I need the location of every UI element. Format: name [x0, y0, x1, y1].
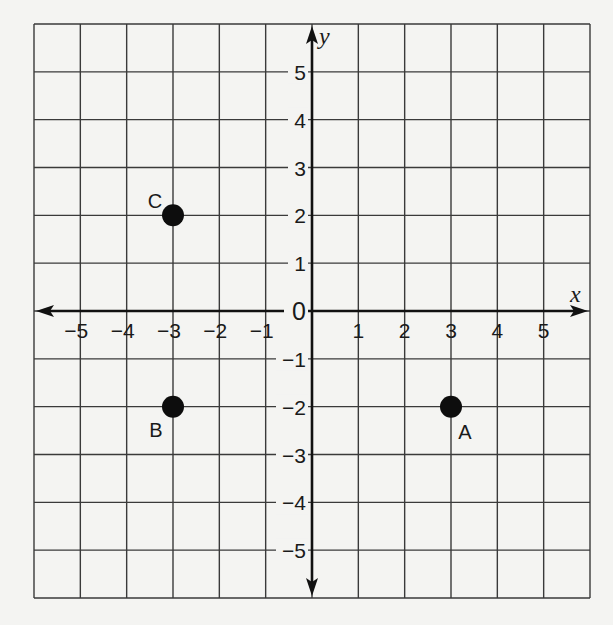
- y-tick-label: −3: [282, 444, 306, 467]
- y-axis-label: y: [317, 23, 330, 49]
- point-c-marker: [162, 204, 184, 226]
- coordinate-plane: xy−5−4−3−2−112345−5−4−3−2−1123450 CBA: [0, 0, 613, 625]
- x-tick-label: 5: [538, 319, 550, 342]
- y-tick-label: 1: [294, 252, 306, 275]
- x-tick-label: 1: [352, 319, 364, 342]
- x-axis-label: x: [569, 281, 581, 307]
- origin-label: 0: [292, 297, 306, 325]
- y-tick-label: −5: [282, 539, 306, 562]
- point-b-marker: [162, 396, 184, 418]
- plotted-points: CBA: [148, 190, 473, 442]
- x-tick-label: 2: [399, 319, 411, 342]
- x-tick-label: −3: [157, 319, 181, 342]
- x-tick-label: −4: [111, 319, 135, 342]
- y-tick-label: 2: [294, 204, 306, 227]
- axes: [36, 26, 588, 596]
- x-tick-label: 3: [445, 319, 457, 342]
- y-tick-label: 5: [294, 61, 306, 84]
- x-tick-label: −2: [203, 319, 227, 342]
- y-tick-label: −4: [282, 491, 306, 514]
- x-tick-label: −5: [64, 319, 88, 342]
- y-tick-label: −2: [282, 396, 306, 419]
- y-tick-label: 4: [294, 109, 306, 132]
- y-tick-label: 3: [294, 157, 306, 180]
- point-a-marker: [440, 396, 462, 418]
- tick-labels: xy−5−4−3−2−112345−5−4−3−2−1123450: [64, 23, 581, 562]
- y-tick-label: −1: [282, 348, 306, 371]
- point-a-label: A: [458, 421, 472, 443]
- x-tick-label: 4: [491, 319, 503, 342]
- point-b-label: B: [149, 419, 162, 441]
- x-tick-label: −1: [250, 319, 274, 342]
- point-c-label: C: [148, 190, 162, 212]
